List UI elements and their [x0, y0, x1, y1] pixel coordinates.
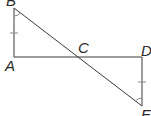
geometry-diagram: B A C D E	[0, 0, 151, 116]
label-b: B	[6, 0, 16, 9]
label-a: A	[4, 57, 15, 74]
angle-arc-e	[136, 98, 142, 101]
label-d: D	[141, 42, 151, 59]
label-e: E	[141, 106, 151, 116]
label-c: C	[78, 39, 89, 56]
angle-arc-b	[14, 13, 20, 16]
